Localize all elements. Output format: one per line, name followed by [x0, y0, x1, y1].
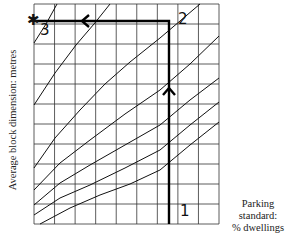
curve-3: [34, 4, 200, 168]
grid-lines: [34, 4, 219, 224]
curve-5: [34, 78, 219, 205]
x-axis-label: Parking standard: % dwellings: [225, 198, 291, 234]
curves: [34, 4, 219, 224]
curve-7: [40, 122, 219, 224]
point-label-2: 2: [178, 12, 188, 27]
curve-2: [34, 4, 110, 105]
y-axis-label: Average block dimension: metres: [7, 50, 18, 191]
x-axis-label-line1: Parking standard:: [225, 198, 291, 222]
point-label-1: 1: [180, 204, 190, 219]
x-axis-label-line2: % dwellings: [225, 222, 291, 234]
curve-6: [34, 102, 219, 215]
point-label-3: 3: [40, 23, 50, 38]
star-marker-icon: ✱: [27, 13, 40, 28]
